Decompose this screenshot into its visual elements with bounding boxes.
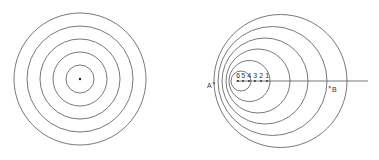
- source-position-dot: [248, 80, 250, 82]
- source-position-label: 3: [253, 72, 257, 79]
- source-position-dot: [237, 80, 239, 82]
- observer-b-marker: ×: [328, 84, 332, 90]
- doppler-wavefront-diagram: 654321 A × B ×: [0, 0, 379, 160]
- observer-b-label: B: [332, 86, 337, 93]
- source-position-label: 5: [241, 72, 245, 79]
- source-position-label: 1: [265, 72, 269, 79]
- source-position-dot: [254, 80, 256, 82]
- source-position-dot: [242, 80, 244, 82]
- observer-a-marker: ×: [212, 80, 216, 86]
- source-position-label: 2: [259, 72, 263, 79]
- source-position-dot: [266, 80, 268, 82]
- source-position-label: 6: [236, 72, 240, 79]
- source-position-label: 4: [247, 72, 251, 79]
- stationary-source-wavefronts: [14, 13, 146, 145]
- source-position-dot: [260, 80, 262, 82]
- source-dot: [79, 78, 81, 80]
- moving-source-wavefronts: 654321: [214, 15, 368, 148]
